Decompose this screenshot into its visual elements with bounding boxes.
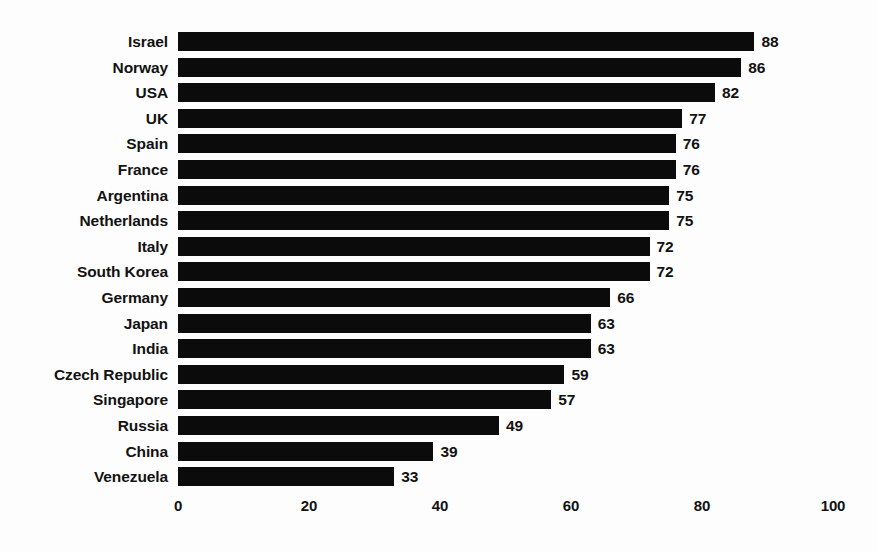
bar-row: Singapore57 (0, 387, 877, 412)
bar (178, 339, 591, 358)
bar (178, 211, 669, 230)
bar-value-label: 76 (683, 134, 700, 153)
bar-row: Israel88 (0, 29, 877, 54)
bar (178, 442, 433, 461)
x-tick-label: 100 (821, 497, 845, 514)
bar (178, 262, 650, 281)
plot-area: Israel88Norway86USA82UK77Spain76France76… (0, 0, 877, 552)
bar-value-label: 33 (401, 467, 418, 486)
bar-value-label: 66 (617, 288, 634, 307)
bar-chart: Israel88Norway86USA82UK77Spain76France76… (0, 0, 877, 552)
bar-value-label: 72 (657, 262, 674, 281)
x-tick-label: 0 (174, 497, 182, 514)
bar-row: Spain76 (0, 131, 877, 156)
x-tick-label: 80 (694, 497, 710, 514)
category-label: India (132, 336, 168, 361)
bar-row: Argentina75 (0, 183, 877, 208)
bar-row: USA82 (0, 80, 877, 105)
bar-row: Germany66 (0, 285, 877, 310)
bar-value-label: 88 (761, 32, 778, 51)
bar-row: India63 (0, 336, 877, 361)
bar-row: Russia49 (0, 413, 877, 438)
bar-row: China39 (0, 439, 877, 464)
bar-row: France76 (0, 157, 877, 182)
bar-row: Norway86 (0, 55, 877, 80)
category-label: Singapore (93, 387, 168, 412)
category-label: Russia (118, 413, 168, 438)
bar-row: Italy72 (0, 234, 877, 259)
category-label: South Korea (77, 259, 168, 284)
bar-value-label: 72 (657, 237, 674, 256)
category-label: Czech Republic (54, 362, 168, 387)
bar-value-label: 75 (676, 211, 693, 230)
bar (178, 237, 650, 256)
category-label: Netherlands (80, 208, 168, 233)
bar-value-label: 59 (571, 365, 588, 384)
x-tick-label: 40 (432, 497, 448, 514)
bar-value-label: 86 (748, 58, 765, 77)
bar-row: Japan63 (0, 311, 877, 336)
category-label: Italy (137, 234, 168, 259)
bar (178, 416, 499, 435)
bar-value-label: 76 (683, 160, 700, 179)
bar (178, 134, 676, 153)
bar-row: Netherlands75 (0, 208, 877, 233)
x-tick-label: 60 (563, 497, 579, 514)
bar-value-label: 57 (558, 390, 575, 409)
bar (178, 288, 610, 307)
bar-row: Czech Republic59 (0, 362, 877, 387)
bar-row: South Korea72 (0, 259, 877, 284)
x-tick-label: 20 (301, 497, 317, 514)
category-label: Venezuela (94, 464, 168, 489)
bar-row: UK77 (0, 106, 877, 131)
bar-value-label: 75 (676, 186, 693, 205)
category-label: UK (146, 106, 168, 131)
bar (178, 365, 564, 384)
category-label: Israel (128, 29, 168, 54)
bar-value-label: 63 (598, 339, 615, 358)
category-label: Norway (113, 55, 168, 80)
category-label: USA (136, 80, 168, 105)
bar (178, 186, 669, 205)
category-label: China (125, 439, 168, 464)
bar (178, 390, 551, 409)
bar (178, 83, 715, 102)
bar (178, 109, 682, 128)
category-label: Germany (102, 285, 169, 310)
category-label: Japan (124, 311, 168, 336)
bar-value-label: 39 (440, 442, 457, 461)
category-label: France (118, 157, 168, 182)
x-axis: 020406080100 (0, 497, 877, 523)
bar-row: Venezuela33 (0, 464, 877, 489)
category-label: Argentina (97, 183, 168, 208)
category-label: Spain (126, 131, 168, 156)
bar-value-label: 63 (598, 314, 615, 333)
bar-value-label: 49 (506, 416, 523, 435)
bar (178, 467, 394, 486)
bar-value-label: 77 (689, 109, 706, 128)
bar (178, 58, 741, 77)
bar (178, 32, 754, 51)
bar-value-label: 82 (722, 83, 739, 102)
bar (178, 314, 591, 333)
bar (178, 160, 676, 179)
